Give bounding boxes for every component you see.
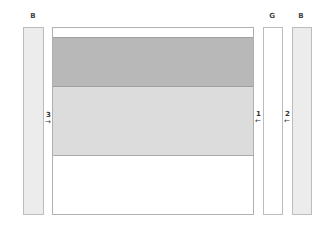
light-band [53,87,253,156]
dark-band [53,37,253,87]
label-right-b: B [291,12,311,20]
right-b-strip [292,27,312,215]
marker-2-arrow-icon: ← [284,118,290,125]
main-panel [52,27,254,215]
g-strip [263,27,283,215]
label-g: G [262,12,282,20]
marker-3-arrow-icon: → [45,119,51,126]
left-b-strip [23,27,44,215]
label-left-b: B [23,12,43,20]
marker-1-arrow-icon: ← [255,118,261,125]
